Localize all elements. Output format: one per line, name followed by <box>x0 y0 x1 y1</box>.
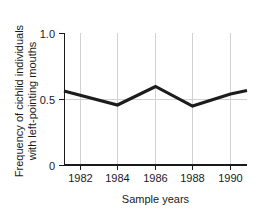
xtick-label-1988: 1988 <box>180 172 204 184</box>
xtick-label-1982: 1982 <box>68 172 92 184</box>
y-axis-title-line-2: with left-pointing mouths <box>26 41 38 161</box>
x-axis-title: Sample years <box>122 193 190 205</box>
ytick-label-0point5: 0.5 <box>40 94 55 106</box>
chart-figure: 1.0 0.5 0 1982 1984 1986 1988 1990 Sampl… <box>0 0 267 216</box>
line-chart: 1.0 0.5 0 1982 1984 1986 1988 1990 Sampl… <box>0 0 267 216</box>
xtick-label-1984: 1984 <box>105 172 129 184</box>
ytick-label-0: 0 <box>49 160 55 172</box>
y-axis-title: Frequency of cichlid individuals with le… <box>13 24 38 177</box>
ytick-label-1point0: 1.0 <box>40 28 55 40</box>
xtick-label-1986: 1986 <box>143 172 167 184</box>
xtick-label-1990: 1990 <box>218 172 242 184</box>
y-axis-title-line-1: Frequency of cichlid individuals <box>13 24 25 177</box>
